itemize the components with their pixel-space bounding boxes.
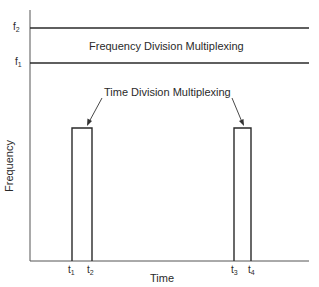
t1-sub: 1: [71, 269, 75, 276]
f2-label: f2: [13, 22, 20, 33]
tdm-pulse-1: [72, 128, 92, 261]
t4-sub: 4: [251, 269, 255, 276]
t4-label: t4: [248, 265, 255, 276]
t2-label: t2: [87, 265, 94, 276]
x-axis-label: Time: [150, 273, 174, 284]
tdm-pulse-2: [234, 128, 251, 261]
y-axis-label: Frequency: [3, 140, 15, 192]
f2-sub: 2: [16, 26, 20, 33]
f1-sub: 1: [18, 61, 22, 68]
t3-label: t3: [231, 265, 238, 276]
t2-sub: 2: [90, 269, 94, 276]
arrow-icon: [87, 98, 102, 126]
f1-label: f1: [15, 57, 22, 68]
arrow-icon: [232, 98, 244, 126]
tdm-label: Time Division Multiplexing: [104, 87, 231, 98]
t1-label: t1: [68, 265, 75, 276]
fdm-label: Frequency Division Multiplexing: [89, 41, 244, 52]
t3-sub: 3: [234, 269, 238, 276]
